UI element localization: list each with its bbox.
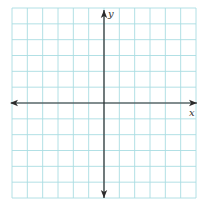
coordinate-plane: x y (0, 0, 208, 219)
x-axis-label: x (189, 107, 195, 118)
y-axis-label: y (107, 8, 114, 19)
